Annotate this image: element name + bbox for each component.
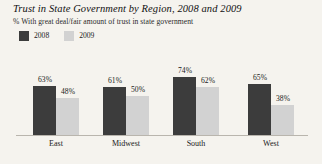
legend-item-2009: 2009 (64, 31, 94, 41)
bar-2008[interactable] (103, 87, 126, 135)
bar-value-label-2009: 38% (263, 95, 303, 103)
bar-group: 65%38% (248, 51, 294, 135)
legend-item-2008: 2008 (19, 31, 49, 41)
legend-swatch-2009 (64, 31, 74, 41)
bar-value-label-2008: 74% (165, 67, 205, 75)
legend-swatch-2008 (19, 31, 29, 41)
legend-label-2009: 2009 (79, 32, 94, 40)
axis-baseline (16, 135, 308, 136)
bar-value-label-2008: 65% (240, 74, 280, 82)
chart-card: Trust in State Government by Region, 200… (0, 0, 322, 164)
bar-2008[interactable] (248, 84, 271, 135)
category-label-east: East (21, 139, 91, 148)
bar-value-label-2008: 61% (95, 77, 135, 85)
bar-group: 61%50% (103, 51, 149, 135)
bar-value-label-2009: 62% (188, 77, 228, 85)
bar-value-label-2009: 50% (118, 86, 158, 94)
bar-2009[interactable] (196, 87, 219, 135)
bar-group: 74%62% (173, 51, 219, 135)
category-label-west: West (236, 139, 306, 148)
bar-2009[interactable] (126, 96, 149, 135)
bar-group: 63%48% (33, 51, 79, 135)
category-label-midwest: Midwest (91, 139, 161, 148)
chart-legend: 2008 2009 (19, 31, 94, 41)
category-label-south: South (161, 139, 231, 148)
legend-label-2008: 2008 (34, 32, 49, 40)
bar-2009[interactable] (56, 98, 79, 135)
bar-value-label-2008: 63% (25, 76, 65, 84)
chart-subtitle: % With great deal/fair amount of trust i… (13, 17, 193, 26)
chart-title: Trust in State Government by Region, 200… (13, 3, 242, 14)
bar-2008[interactable] (173, 77, 196, 135)
bar-2009[interactable] (271, 105, 294, 135)
bar-value-label-2009: 48% (48, 88, 88, 96)
